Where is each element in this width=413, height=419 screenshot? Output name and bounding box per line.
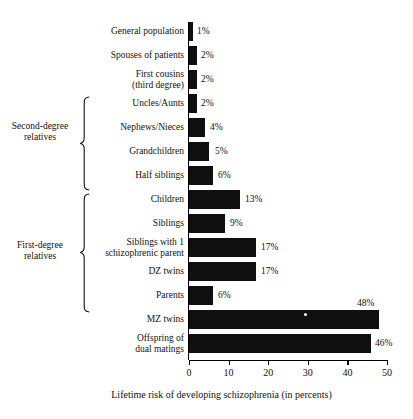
category-label-column: General population Spouses of patients F… (32, 0, 184, 360)
cat-label-grandchildren: Grandchildren (34, 146, 184, 157)
x-tick-20 (268, 360, 269, 365)
x-axis-title: Lifetime risk of developing schizophreni… (0, 389, 413, 400)
bar-value-dz-twins: 17% (261, 262, 278, 281)
bar-value-siblings-one-parent: 17% (261, 238, 278, 257)
bar-general-population (189, 22, 193, 41)
plot-area: 1% 2% 2% 2% 4% 5% 6% 13% 9% 17% 17% 6% 4… (189, 22, 387, 360)
mz-twins-dot-marker (304, 313, 307, 316)
cat-label-children: Children (34, 194, 184, 205)
x-tick-50 (387, 360, 388, 365)
bar-nephews-nieces (189, 118, 205, 137)
x-tick-label-0: 0 (187, 367, 192, 378)
bar-value-general-population: 1% (197, 22, 210, 41)
bar-offspring-dual-matings (189, 334, 371, 353)
bar-value-mz-twins: 48% (357, 298, 374, 308)
x-tick-30 (308, 360, 309, 365)
x-tick-label-10: 10 (224, 367, 234, 378)
cat-label-half-siblings: Half siblings (34, 170, 184, 181)
bar-parents (189, 286, 213, 305)
x-axis-title-text: Lifetime risk of developing schizophreni… (81, 389, 331, 400)
x-tick-10 (229, 360, 230, 365)
bar-value-children: 13% (245, 190, 262, 209)
cat-label-nephews-nieces: Nephews/Nieces (34, 122, 184, 133)
cat-label-siblings-one-parent: Siblings with 1 schizophrenic parent (34, 237, 184, 258)
bar-siblings-one-parent (189, 238, 256, 257)
cat-label-first-cousins: First cousins (third degree) (34, 69, 184, 90)
cat-label-mz-twins: MZ twins (34, 314, 184, 325)
x-tick-label-20: 20 (263, 367, 273, 378)
x-tick-0 (189, 360, 190, 365)
bar-grandchildren (189, 142, 209, 161)
cat-label-spouses-of-patients: Spouses of patients (34, 50, 184, 61)
bar-first-cousins (189, 70, 197, 89)
bar-half-siblings (189, 166, 213, 185)
schizophrenia-risk-bar-chart: Second-degree relatives First-degree rel… (0, 0, 413, 419)
x-tick-label-40: 40 (342, 367, 352, 378)
x-axis: 0 10 20 30 40 50 (189, 360, 388, 390)
bar-value-nephews-nieces: 4% (210, 118, 223, 137)
x-tick-40 (347, 360, 348, 365)
bar-value-first-cousins: 2% (201, 70, 214, 89)
cat-label-general-population: General population (34, 26, 184, 37)
x-axis-line (189, 360, 388, 361)
bar-value-offspring-dual-matings: 46% (375, 334, 392, 353)
cat-label-uncles-aunts: Uncles/Aunts (34, 98, 184, 109)
bar-value-uncles-aunts: 2% (201, 94, 214, 113)
bar-value-spouses-of-patients: 2% (201, 46, 214, 65)
x-tick-label-50: 50 (382, 367, 392, 378)
bar-uncles-aunts (189, 94, 197, 113)
bar-value-siblings: 9% (230, 214, 243, 233)
x-tick-label-30: 30 (303, 367, 313, 378)
bar-dz-twins (189, 262, 256, 281)
bar-spouses-of-patients (189, 46, 197, 65)
bar-value-parents: 6% (218, 286, 231, 305)
cat-label-offspring-dual-matings: Offspring of dual matings (34, 333, 184, 354)
cat-label-siblings: Siblings (34, 218, 184, 229)
cat-label-parents: Parents (34, 290, 184, 301)
bar-siblings (189, 214, 225, 233)
bar-value-grandchildren: 5% (215, 142, 228, 161)
bar-value-half-siblings: 6% (218, 166, 231, 185)
bar-mz-twins (189, 310, 379, 329)
bar-children (189, 190, 240, 209)
cat-label-dz-twins: DZ twins (34, 266, 184, 277)
